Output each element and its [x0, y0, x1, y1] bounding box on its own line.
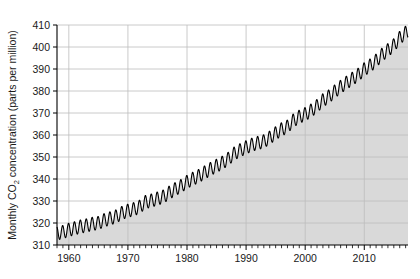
y-tick-label-400: 400	[32, 41, 50, 53]
y-axis-title: Monthly CO2 concentration (parts per mil…	[6, 30, 21, 240]
x-tick-label-1960: 1960	[57, 252, 81, 264]
x-axis-ticks	[57, 245, 406, 250]
x-tick-label-2010: 2010	[353, 252, 377, 264]
y-tick-label-380: 380	[32, 85, 50, 97]
x-tick-label-1990: 1990	[234, 252, 258, 264]
y-tick-label-390: 390	[32, 63, 50, 75]
y-axis-tick-labels: 310320330340350360370380390400410	[32, 19, 50, 251]
x-axis-tick-labels: 196019701980199020002010	[57, 252, 376, 264]
y-tick-label-330: 330	[32, 195, 50, 207]
x-tick-label-1970: 1970	[116, 252, 140, 264]
y-tick-label-310: 310	[32, 239, 50, 251]
y-axis-title-text: Monthly CO2 concentration (parts per mil…	[6, 30, 21, 240]
co2-concentration-chart: 310320330340350360370380390400410 196019…	[0, 0, 420, 279]
y-axis-ticks	[53, 25, 57, 245]
chart-canvas: 310320330340350360370380390400410 196019…	[0, 0, 420, 279]
y-axis-title-group: Monthly CO2 concentration (parts per mil…	[6, 30, 21, 240]
y-tick-label-340: 340	[32, 173, 50, 185]
x-tick-label-1980: 1980	[175, 252, 199, 264]
y-tick-label-360: 360	[32, 129, 50, 141]
y-tick-label-350: 350	[32, 151, 50, 163]
y-tick-label-370: 370	[32, 107, 50, 119]
x-tick-label-2000: 2000	[294, 252, 318, 264]
y-tick-label-410: 410	[32, 19, 50, 31]
y-tick-label-320: 320	[32, 217, 50, 229]
